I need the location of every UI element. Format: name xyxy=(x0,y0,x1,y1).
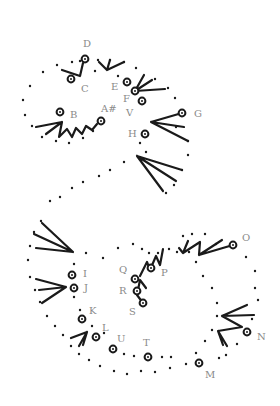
dot xyxy=(62,334,64,336)
dot xyxy=(70,345,72,347)
dot xyxy=(56,64,58,66)
dot xyxy=(175,126,177,128)
dot xyxy=(182,235,184,237)
dot xyxy=(168,248,170,250)
stroke-line xyxy=(135,75,165,91)
dot xyxy=(98,175,100,177)
point-center xyxy=(134,278,136,280)
point-center xyxy=(134,90,136,92)
stroke-line xyxy=(218,305,254,346)
dot xyxy=(39,301,41,303)
dot xyxy=(73,296,75,298)
dot xyxy=(165,192,167,194)
point-center xyxy=(71,274,73,276)
point-center xyxy=(246,331,248,333)
dot xyxy=(79,309,81,311)
dot xyxy=(170,356,172,358)
dot xyxy=(187,140,189,142)
point-label: U xyxy=(117,333,125,344)
point-label: I xyxy=(83,268,87,279)
stroke-line xyxy=(34,223,73,252)
stroke-line xyxy=(137,249,163,303)
stroke-line xyxy=(179,240,233,255)
dot xyxy=(31,125,33,127)
point-center xyxy=(198,362,200,364)
dot xyxy=(126,373,128,375)
dot xyxy=(225,354,227,356)
dot xyxy=(55,140,57,142)
dot xyxy=(46,315,48,317)
dot xyxy=(71,61,73,63)
dot xyxy=(254,270,256,272)
dot xyxy=(82,137,84,139)
point-label: O xyxy=(242,232,250,243)
point-center xyxy=(100,120,102,122)
point-center xyxy=(136,290,138,292)
dot xyxy=(191,233,193,235)
dot xyxy=(169,367,171,369)
point-center xyxy=(141,100,143,102)
point-label: E xyxy=(111,81,118,92)
dot xyxy=(123,61,125,63)
dot xyxy=(148,252,150,254)
dot xyxy=(135,67,137,69)
stroke-line xyxy=(62,63,83,76)
puzzle-canvas: DCEFVA#BGHIJQPRSKLUTONM xyxy=(0,0,280,406)
dot xyxy=(68,142,70,144)
point-center xyxy=(81,318,83,320)
point-center xyxy=(126,81,128,83)
dot xyxy=(141,248,143,250)
dot xyxy=(187,154,189,156)
dot xyxy=(157,252,159,254)
dot xyxy=(173,184,175,186)
dot xyxy=(22,99,24,101)
dot xyxy=(181,169,183,171)
point-label: B xyxy=(70,109,77,120)
dot xyxy=(140,370,142,372)
dot xyxy=(27,259,29,261)
point-center xyxy=(59,111,61,113)
dot xyxy=(161,356,163,358)
dot xyxy=(145,151,147,153)
point-label: L xyxy=(102,322,109,333)
dot xyxy=(94,70,96,72)
point-label: M xyxy=(205,369,215,380)
point-center xyxy=(84,58,86,60)
point-label: H xyxy=(128,128,137,139)
dot xyxy=(73,263,75,265)
dot xyxy=(257,299,259,301)
dot xyxy=(88,359,90,361)
dot xyxy=(132,243,134,245)
numbered-circles xyxy=(57,56,251,367)
dot xyxy=(216,302,218,304)
dot xyxy=(82,181,84,183)
stroke-line xyxy=(36,279,66,303)
dot xyxy=(117,247,119,249)
dot xyxy=(204,233,206,235)
dot xyxy=(236,343,238,345)
dot xyxy=(102,257,104,259)
point-label: A# xyxy=(100,103,117,114)
dot xyxy=(211,287,213,289)
point-label: N xyxy=(257,331,266,342)
point-center xyxy=(112,348,114,350)
dot xyxy=(215,243,217,245)
point-label: S xyxy=(129,306,136,317)
point-center xyxy=(95,336,97,338)
point-label: F xyxy=(123,93,130,104)
dot xyxy=(42,71,44,73)
dot xyxy=(251,318,253,320)
dot xyxy=(59,196,61,198)
dot xyxy=(78,353,80,355)
dot xyxy=(204,340,206,342)
point-center xyxy=(150,267,152,269)
stroke-line xyxy=(36,122,97,137)
dot xyxy=(92,130,94,132)
dot xyxy=(195,261,197,263)
dot xyxy=(133,355,135,357)
dot xyxy=(174,97,176,99)
dot xyxy=(91,325,93,327)
point-label: D xyxy=(83,38,91,49)
dot xyxy=(33,231,35,233)
point-center xyxy=(232,244,234,246)
